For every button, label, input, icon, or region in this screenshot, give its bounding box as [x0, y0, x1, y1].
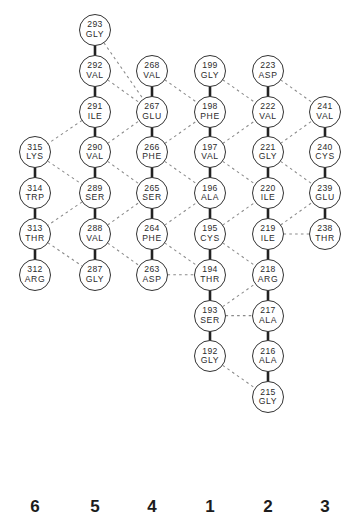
residue-node[interactable]: 194THR	[194, 259, 226, 291]
hydrogen-bond	[108, 161, 140, 184]
residue-node[interactable]: 289SER	[79, 177, 111, 209]
hydrogen-bond	[281, 161, 313, 184]
hydrogen-bond	[165, 161, 198, 184]
residue-circle	[79, 55, 111, 87]
hydrogen-bond	[223, 243, 256, 266]
residue-node[interactable]: 263ASP	[136, 259, 168, 291]
hydrogen-bond	[165, 121, 198, 144]
residue-circle	[252, 218, 284, 250]
hydrogen-bond	[48, 120, 82, 143]
residue-node[interactable]: 223ASP	[252, 55, 284, 87]
residue-node[interactable]: 219ILE	[252, 218, 284, 250]
hydrogen-bond	[223, 121, 256, 144]
hydrogen-bond	[223, 202, 256, 225]
residue-circle	[19, 177, 51, 209]
hydrogen-bond	[223, 284, 256, 307]
residue-circle	[194, 259, 226, 291]
residue-circle	[252, 259, 284, 291]
residue-circle	[19, 136, 51, 168]
residue-node[interactable]: 198PHE	[194, 96, 226, 128]
residue-node[interactable]: 264PHE	[136, 218, 168, 250]
residue-node[interactable]: 193SER	[194, 300, 226, 332]
residue-circle	[194, 340, 226, 372]
hydrogen-bond	[165, 243, 198, 266]
residue-node[interactable]: 313THR	[19, 218, 51, 250]
residue-node[interactable]: 265SER	[136, 177, 168, 209]
strand-label-4: 4	[137, 497, 167, 517]
residue-node[interactable]: 288VAL	[79, 218, 111, 250]
residue-circle	[309, 218, 341, 250]
strand-label-2: 2	[253, 497, 283, 517]
hydrogen-bond	[48, 202, 82, 225]
residue-node[interactable]: 197VAL	[194, 136, 226, 168]
residue-node[interactable]: 192GLY	[194, 340, 226, 372]
residue-node[interactable]: 217ALA	[252, 300, 284, 332]
hydrogen-bond	[108, 121, 140, 144]
bond-layer	[0, 0, 360, 526]
residue-node[interactable]: 215GLY	[252, 381, 284, 413]
residue-node[interactable]: 268VAL	[136, 55, 168, 87]
residue-node[interactable]: 314TRP	[19, 177, 51, 209]
hydrogen-bond	[48, 161, 82, 184]
residue-node[interactable]: 312ARG	[19, 259, 51, 291]
residue-circle	[252, 177, 284, 209]
residue-circle	[194, 300, 226, 332]
residue-circle	[136, 177, 168, 209]
residue-circle	[309, 96, 341, 128]
residue-node[interactable]: 195CYS	[194, 218, 226, 250]
residue-node[interactable]: 290VAL	[79, 136, 111, 168]
residue-circle	[79, 218, 111, 250]
residue-node[interactable]: 315LYS	[19, 136, 51, 168]
residue-node[interactable]: 291ILE	[79, 96, 111, 128]
strand-label-5: 5	[80, 497, 110, 517]
hydrogen-bond	[223, 80, 256, 103]
residue-circle	[79, 259, 111, 291]
residue-circle	[136, 259, 168, 291]
strand-label-3: 3	[310, 497, 340, 517]
residue-node[interactable]: 240CYS	[309, 136, 341, 168]
residue-circle	[252, 55, 284, 87]
residue-node[interactable]: 292VAL	[79, 55, 111, 87]
strand-label-1: 1	[195, 497, 225, 517]
hydrogen-bond	[108, 202, 140, 225]
residue-node[interactable]: 238THR	[309, 218, 341, 250]
hydrogen-bond	[48, 243, 82, 266]
residue-node[interactable]: 221GLY	[252, 136, 284, 168]
residue-circle	[79, 136, 111, 168]
strand-label-6: 6	[20, 497, 50, 517]
residue-node[interactable]: 267GLU	[136, 96, 168, 128]
residue-circle	[252, 96, 284, 128]
hydrogen-bond	[281, 202, 313, 225]
residue-circle	[136, 96, 168, 128]
residue-circle	[252, 381, 284, 413]
residue-circle	[79, 14, 111, 46]
residue-circle	[19, 259, 51, 291]
hydrogen-bond	[223, 365, 256, 388]
residue-circle	[79, 96, 111, 128]
residue-circle	[252, 340, 284, 372]
hydrogen-bond	[165, 80, 198, 103]
residue-circle	[194, 218, 226, 250]
hydrogen-bond	[281, 121, 313, 144]
residue-circle	[252, 300, 284, 332]
residue-node[interactable]: 216ALA	[252, 340, 284, 372]
residue-node[interactable]: 266PHE	[136, 136, 168, 168]
residue-circle	[79, 177, 111, 209]
residue-circle	[19, 218, 51, 250]
residue-node[interactable]: 241VAL	[309, 96, 341, 128]
residue-node[interactable]: 287GLY	[79, 259, 111, 291]
residue-circle	[136, 218, 168, 250]
residue-circle	[194, 96, 226, 128]
residue-circle	[136, 55, 168, 87]
residue-circle	[194, 136, 226, 168]
hydrogen-bond	[281, 80, 313, 103]
residue-node[interactable]: 293GLY	[79, 14, 111, 46]
residue-node[interactable]: 199GLY	[194, 55, 226, 87]
residue-node[interactable]: 220ILE	[252, 177, 284, 209]
residue-node[interactable]: 218ARG	[252, 259, 284, 291]
residue-node[interactable]: 196ALA	[194, 177, 226, 209]
hydrogen-bond	[108, 80, 140, 103]
residue-node[interactable]: 222VAL	[252, 96, 284, 128]
hydrogen-bond	[165, 202, 198, 225]
residue-node[interactable]: 239GLU	[309, 177, 341, 209]
